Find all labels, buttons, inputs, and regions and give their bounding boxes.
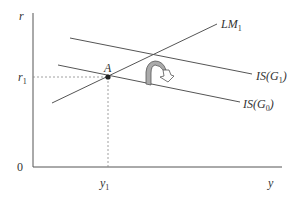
lm1-label: LM1: [221, 18, 242, 33]
equilibrium-point-a: [105, 74, 110, 79]
r1-sub: 1: [23, 77, 27, 86]
point-a-label: A: [104, 62, 111, 74]
is-g1-curve: [70, 38, 252, 74]
lm1-curve: [52, 24, 217, 103]
r1-tick-label: r1: [18, 71, 27, 86]
lm1-sub: 1: [238, 24, 242, 33]
is-lm-diagram: r 0 y r1 y1 A LM1 IS(G1) IS(G0): [0, 0, 300, 198]
y1-sub: 1: [105, 183, 109, 192]
is-g0-label: IS(G0): [243, 98, 274, 113]
origin-label: 0: [17, 161, 23, 173]
shift-arrow-icon: [146, 61, 174, 85]
is-g0-suffix: ): [270, 97, 274, 111]
is-g1-label: IS(G1): [256, 70, 287, 85]
y1-tick-label: y1: [100, 177, 109, 192]
lm1-name: LM: [221, 17, 238, 31]
is-g0-name: IS(G: [243, 97, 266, 111]
is-g1-name: IS(G: [256, 69, 279, 83]
is-g1-suffix: ): [283, 69, 287, 83]
r-axis-label: r: [19, 10, 24, 22]
y-axis-label: y: [268, 177, 273, 189]
